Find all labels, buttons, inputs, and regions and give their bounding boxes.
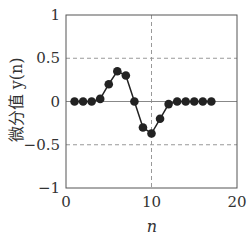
data-point [104,80,113,89]
line-chart: 10.50−0.5−101020 n 微分值 y(n) [0,0,252,240]
data-point [139,123,148,132]
data-point [190,97,199,106]
y-tick-label: −0.5 [24,136,60,154]
data-point [173,97,182,106]
x-tick-label: 0 [61,193,71,211]
x-tick-label: 10 [142,193,161,211]
data-point [147,129,156,138]
data-point [181,97,190,106]
data-point [70,97,79,106]
y-tick-label: 0 [50,93,60,111]
data-point [79,97,88,106]
data-point [130,97,139,106]
data-point [113,67,122,76]
data-point [156,115,165,124]
data-point [87,97,96,106]
y-tick-label: −1 [38,179,60,197]
data-series [70,67,215,138]
data-point [199,97,208,106]
data-point [122,71,131,80]
data-point [207,97,216,106]
data-point [96,95,105,104]
axis-ticks: 10.50−0.5−101020 [24,6,247,211]
x-axis-label: n [147,217,157,236]
x-tick-label: 20 [227,193,246,211]
y-tick-label: 1 [50,6,60,24]
data-point [164,100,173,109]
y-tick-label: 0.5 [36,49,60,67]
y-axis-label: 微分值 y(n) [7,58,26,143]
